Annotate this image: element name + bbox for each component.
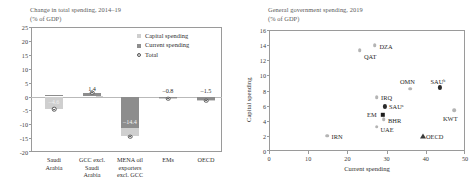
point-label-kwt: KWT xyxy=(443,115,458,122)
point-marker-oecd xyxy=(420,134,426,139)
ytick-mark xyxy=(267,30,270,31)
ytick-20: 20 xyxy=(10,37,28,44)
point-label-em: EM xyxy=(367,111,377,118)
xtick-mark xyxy=(387,151,388,154)
ytick-neg5: -5 xyxy=(10,107,28,114)
xtick-mark xyxy=(269,151,270,154)
ytick-mark xyxy=(29,110,32,111)
ytick-mark xyxy=(29,69,32,70)
ytick-neg20: -20 xyxy=(10,149,28,156)
legend-label-capital: Capital spending xyxy=(145,32,188,39)
total-marker-saudi-arabia xyxy=(52,107,57,112)
category-line: Arabia xyxy=(46,164,63,172)
point-label-uae: UAE xyxy=(381,126,394,133)
ytick-25: 25 xyxy=(10,24,28,31)
ytick-mark xyxy=(267,75,270,76)
xtick-mark xyxy=(426,151,427,154)
category-line: exporters xyxy=(117,164,143,172)
point-label-sau-b: SAUᵇ xyxy=(431,78,446,85)
left-panel-title: Change in total spending, 2014–19 xyxy=(30,6,121,14)
figure-container: Change in total spending, 2014–19 (% of … xyxy=(0,0,472,194)
bar-total-label-saudi-arabia: –4.6 xyxy=(49,98,60,105)
xtick-50: 50 xyxy=(462,155,468,162)
category-line: Saudi xyxy=(46,156,63,164)
legend-label-current: Current spending xyxy=(145,41,189,48)
ytick-mark xyxy=(29,138,32,139)
xtick-mark xyxy=(308,151,309,154)
point-label-irq: IRQ xyxy=(381,94,392,101)
category-label-gcc-excl-saudi: GCC excl. Saudi Arabia xyxy=(79,156,105,179)
point-marker-em xyxy=(380,112,384,116)
xtick-0: 0 xyxy=(267,155,270,162)
point-marker-bhr xyxy=(382,118,386,122)
right-panel-title: General government spending, 2019 xyxy=(268,6,363,14)
legend-swatch-current-icon xyxy=(137,44,141,48)
ytick-mark xyxy=(29,55,32,56)
legend-label-total: Total xyxy=(145,51,158,58)
ytick-14: 14 xyxy=(248,42,266,49)
bar-total-label-mena-oil-exporters: –14.4 xyxy=(123,118,137,125)
panel-change-in-total-spending: Change in total spending, 2014–19 (% of … xyxy=(0,0,236,194)
x-axis-title: Current spending xyxy=(344,165,390,172)
ytick-mark xyxy=(267,60,270,61)
ytick-mark xyxy=(267,45,270,46)
category-label-saudi-arabia: Saudi Arabia xyxy=(46,156,63,171)
ytick-0: 0 xyxy=(248,148,266,155)
category-line: Saudi xyxy=(79,164,105,172)
category-line: excl. GCC xyxy=(117,171,143,179)
ytick-mark xyxy=(29,124,32,125)
left-panel-subtitle: (% of GDP) xyxy=(30,15,61,23)
point-marker-kwt xyxy=(453,108,457,112)
point-label-dza: DZA xyxy=(380,43,393,50)
point-label-oecd: OECD xyxy=(426,133,443,140)
xtick-mark xyxy=(464,151,465,154)
xtick-mark xyxy=(347,151,348,154)
point-marker-irn xyxy=(325,134,329,138)
ytick-mark xyxy=(29,151,32,152)
point-label-omn: OMN xyxy=(400,78,415,85)
panel-general-government-spending: General government spending, 2019 (% of … xyxy=(236,0,472,194)
xtick-40: 40 xyxy=(423,155,429,162)
xtick-10: 10 xyxy=(305,155,311,162)
point-label-irn: IRN xyxy=(332,133,343,140)
point-label-sau-a: SAUᵃ xyxy=(389,103,404,110)
total-marker-gcc-excl-saudi xyxy=(90,90,95,95)
ytick-10: 10 xyxy=(10,65,28,72)
point-marker-dza xyxy=(373,43,377,47)
bar-capital-gcc-excl-saudi xyxy=(96,96,103,97)
ytick-mark xyxy=(267,121,270,122)
point-label-bhr: BHR xyxy=(388,117,401,124)
category-line: Arabia xyxy=(79,171,105,179)
bar-total-label-oecd: –1.5 xyxy=(201,87,212,94)
ytick-2: 2 xyxy=(248,132,266,139)
point-label-qat: QAT xyxy=(364,53,376,60)
ytick-mark xyxy=(267,106,270,107)
ytick-mark xyxy=(29,41,32,42)
category-label-ems: EMs xyxy=(162,156,174,164)
total-marker-ems xyxy=(166,96,171,101)
category-line: MENA oil xyxy=(117,156,143,164)
ytick-mark xyxy=(267,91,270,92)
ytick-15: 15 xyxy=(10,51,28,58)
point-marker-irq xyxy=(375,96,379,100)
total-marker-oecd xyxy=(204,98,209,103)
bar-current-saudi-arabia xyxy=(45,95,63,97)
ytick-mark xyxy=(29,83,32,84)
ytick-16: 16 xyxy=(248,27,266,34)
ytick-mark xyxy=(267,136,270,137)
y-axis-title: Capital spending xyxy=(245,77,252,122)
ytick-0: 0 xyxy=(10,93,28,100)
ytick-12: 12 xyxy=(248,57,266,64)
total-marker-mena-oil-exporters xyxy=(128,134,133,139)
point-marker-qat xyxy=(358,49,362,53)
point-marker-uae xyxy=(375,125,379,129)
category-line: GCC excl. xyxy=(79,156,105,164)
point-marker-omn xyxy=(408,87,412,91)
legend-swatch-capital-icon xyxy=(137,34,141,38)
xtick-20: 20 xyxy=(344,155,350,162)
category-line: EMs xyxy=(162,156,174,164)
bar-total-label-ems: –0.8 xyxy=(163,87,174,94)
ytick-mark xyxy=(29,27,32,28)
category-label-mena-oil-exporters: MENA oil exporters excl. GCC xyxy=(117,156,143,179)
category-line: OECD xyxy=(198,156,215,164)
